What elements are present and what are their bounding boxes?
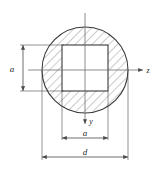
dimension-label-a-horizontal: a bbox=[83, 128, 88, 138]
cross-section-diagram: z y a a d bbox=[0, 0, 160, 171]
dimension-label-a-vertical: a bbox=[10, 64, 15, 74]
dimension-label-d: d bbox=[83, 147, 88, 157]
axis-label-y: y bbox=[88, 117, 93, 126]
